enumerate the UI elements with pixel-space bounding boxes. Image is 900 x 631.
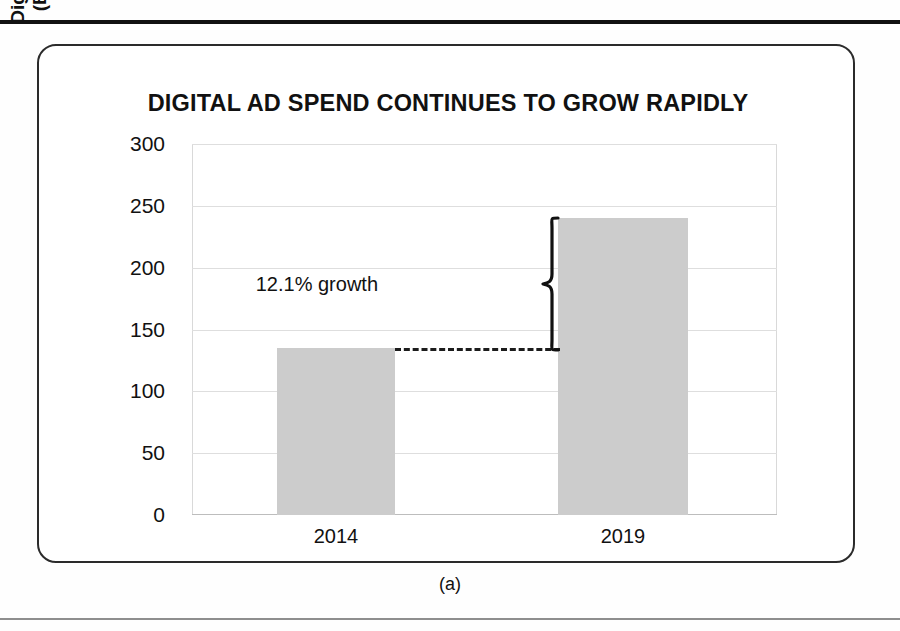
y-tick-0: 0 [45,503,165,527]
figure-caption: (a) [0,574,900,595]
figure-card: DIGITAL AD SPEND CONTINUES TO GROW RAPID… [37,44,855,563]
growth-annotation-label: 12.1% growth [256,273,378,296]
x-tick-2019: 2019 [528,525,718,548]
y-tick-150: 150 [45,318,165,342]
y-tick-50: 50 [45,441,165,465]
plot-area: 0 50 100 150 200 250 300 2014 2019 12.1%… [192,144,777,515]
gridline-150 [192,330,777,331]
y-tick-100: 100 [45,379,165,403]
y-axis-title-line1: Digital Ad Spend [7,0,29,98]
gridline-250 [192,206,777,207]
growth-brace-icon [532,214,564,354]
page-rule-bottom [0,618,900,620]
bar-2014 [277,348,395,515]
y-tick-200: 200 [45,256,165,280]
gridline-300 [192,144,777,145]
bar-2019 [558,218,688,515]
y-axis-title-line2: (Billions USD) [29,0,51,98]
page-rule-top [0,20,900,24]
y-tick-300: 300 [45,132,165,156]
y-axis-title: Digital Ad Spend (Billions USD) [7,0,51,98]
gridline-200 [192,268,777,269]
chart-title: DIGITAL AD SPEND CONTINUES TO GROW RAPID… [39,90,857,117]
x-tick-2014: 2014 [241,525,431,548]
figure-page: DIGITAL AD SPEND CONTINUES TO GROW RAPID… [0,0,900,631]
y-tick-250: 250 [45,194,165,218]
